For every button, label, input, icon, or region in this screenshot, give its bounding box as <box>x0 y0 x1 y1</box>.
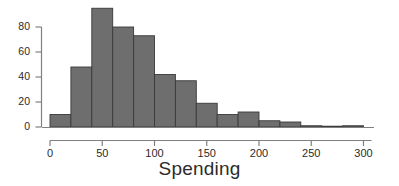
y-axis-tick-label: 0 <box>8 120 30 132</box>
histogram-bars <box>50 8 364 127</box>
x-axis-title: Spending <box>0 158 399 180</box>
histogram-bar <box>92 8 113 127</box>
histogram-bar <box>238 112 259 127</box>
histogram-bar <box>71 67 92 127</box>
histogram-bar <box>217 115 238 128</box>
histogram-bar <box>259 121 280 127</box>
histogram-bar <box>155 75 176 128</box>
y-axis-tick-label: 40 <box>8 70 30 82</box>
histogram-bar <box>301 126 322 127</box>
histogram-bar <box>322 126 343 127</box>
histogram-bar <box>50 115 71 128</box>
histogram-bar <box>175 81 196 127</box>
y-axis-tick-label: 80 <box>8 20 30 32</box>
y-axis-tick-label: 60 <box>8 45 30 57</box>
histogram-bar <box>196 103 217 127</box>
histogram-bar <box>134 36 155 127</box>
histogram-figure: 020406080 050100150200250300 Spending <box>0 0 399 186</box>
histogram-bar <box>343 126 364 127</box>
histogram-bar <box>280 122 301 127</box>
y-axis-tick-label: 20 <box>8 95 30 107</box>
histogram-bar <box>113 27 134 127</box>
